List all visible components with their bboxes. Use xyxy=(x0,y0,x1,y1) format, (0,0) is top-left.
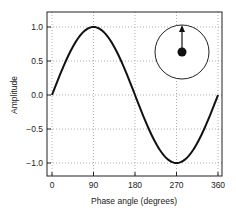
y-tick-label: 1.0 xyxy=(31,22,43,32)
x-tick-label: 270 xyxy=(169,180,183,190)
x-axis-ticks: 090180270360 xyxy=(50,172,226,190)
x-tick-label: 360 xyxy=(211,180,225,190)
x-axis-label: Phase angle (degrees) xyxy=(91,196,177,206)
y-tick-label: 0.0 xyxy=(31,90,43,100)
x-tick-label: 0 xyxy=(50,180,55,190)
y-axis-label: Amplitude xyxy=(9,76,19,114)
y-tick-label: −0.5 xyxy=(26,124,43,134)
x-tick-label: 180 xyxy=(128,180,142,190)
chart: 1.00.50.0−0.5−1.0 090180270360 Phase ang… xyxy=(0,0,236,215)
y-tick-label: −1.0 xyxy=(26,158,43,168)
y-tick-label: 0.5 xyxy=(31,56,43,66)
phasor-inset xyxy=(155,25,209,79)
x-tick-label: 90 xyxy=(89,180,99,190)
phasor-center-dot xyxy=(178,48,187,57)
